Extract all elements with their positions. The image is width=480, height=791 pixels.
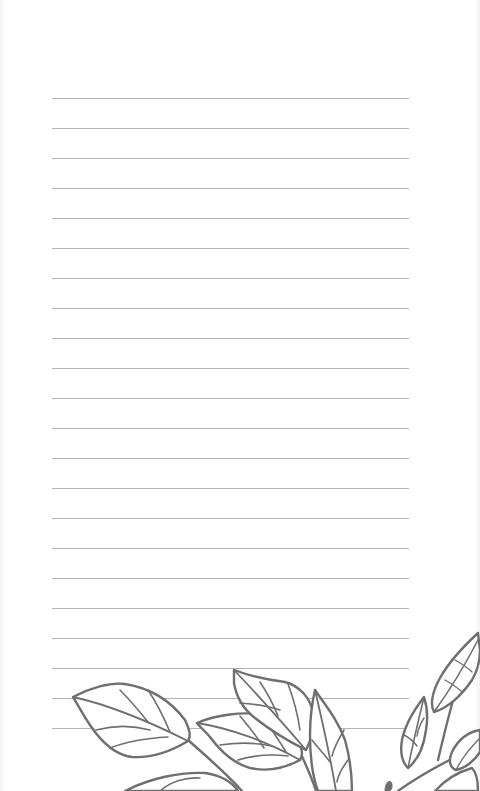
leaf-7-icon <box>432 633 480 712</box>
leaf-4-icon <box>310 690 352 791</box>
leaf-9-icon <box>435 768 478 791</box>
leaf-1-icon <box>73 684 190 757</box>
leaf-illustration <box>0 0 480 791</box>
notepaper-page <box>0 0 480 791</box>
leaf-8-icon <box>450 730 480 770</box>
bud-icon <box>385 781 392 791</box>
leaf-6-icon <box>401 697 427 768</box>
leaf-5-icon <box>125 773 238 791</box>
